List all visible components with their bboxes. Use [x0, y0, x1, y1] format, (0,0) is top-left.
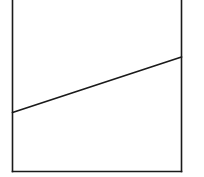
container — [13, 0, 182, 172]
diagram-canvas — [0, 0, 204, 177]
sloped-line — [13, 57, 182, 113]
